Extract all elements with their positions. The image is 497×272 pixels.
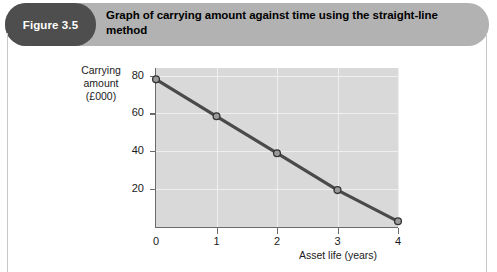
data-point-marker: [213, 113, 220, 120]
line-chart: 2040608001234 Carrying amount (£000) Ass…: [0, 46, 497, 272]
figure-title: Graph of carrying amount against time us…: [106, 8, 476, 37]
figure-card: Figure 3.5 Graph of carrying amount agai…: [0, 0, 497, 272]
data-point-marker: [274, 150, 281, 157]
data-point-marker: [395, 218, 402, 225]
data-point-marker: [153, 76, 160, 83]
figure-number-badge: Figure 3.5: [5, 3, 96, 46]
series-layer: [0, 46, 497, 272]
data-point-marker: [334, 187, 341, 194]
figure-number-label: Figure 3.5: [23, 19, 78, 31]
